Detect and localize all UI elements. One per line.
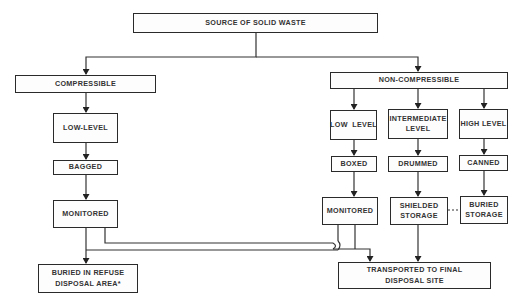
node-boxed: BOXED [331,156,377,172]
node-source: SOURCE OF SOLID WASTE [133,13,378,33]
node-nc-intermediate: INTERMEDIATE LEVEL [388,109,448,139]
node-bagged: BAGGED [53,160,118,175]
node-nc-monitored: MONITORED [322,197,378,225]
node-shielded-storage: SHIELDED STORAGE [390,197,448,225]
node-non-compressible: NON-COMPRESSIBLE [330,72,508,89]
node-transported: TRANSPORTED TO FINAL DISPOSAL SITE [338,262,491,289]
node-nc-high-level: HIGH LEVEL [459,109,508,139]
node-nc-low-level: LOW LEVEL [330,110,377,140]
node-drummed: DRUMMED [388,156,448,172]
node-buried-storage: BURIED STORAGE [460,196,508,224]
node-compressible: COMPRESSIBLE [15,75,156,93]
node-comp-monitored: MONITORED [53,200,118,228]
node-buried-refuse: BURIED IN REFUSE DISPOSAL AREA* [38,264,138,293]
node-comp-low-level: LOW-LEVEL [53,113,118,143]
connector-lines [0,0,521,303]
node-canned: CANNED [459,155,508,171]
